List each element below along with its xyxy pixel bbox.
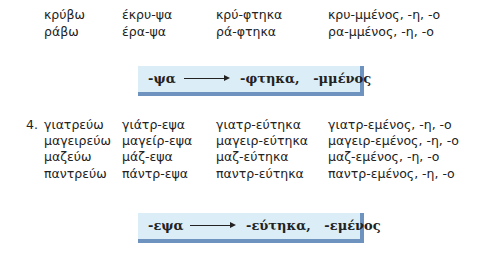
aorist-active-form: έρα-ψα: [122, 24, 166, 40]
rule-from: -εψα: [148, 213, 184, 239]
aorist-active-form: πάντρ-εψα: [122, 166, 188, 182]
aorist-active-form: μάζ-εψα: [122, 149, 173, 165]
aorist-passive-form: ρά-φτηκα: [216, 24, 276, 40]
arrow-right-icon: [190, 225, 234, 226]
aorist-passive-form: μαζ-εύτηκα: [216, 149, 289, 165]
aorist-passive-form: γιατρ-εύτηκα: [216, 117, 301, 133]
aorist-passive-form: παντρ-εύτηκα: [216, 166, 304, 182]
present-form: μαζεύω: [44, 149, 91, 165]
aorist-active-form: μαγείρ-εψα: [122, 133, 192, 149]
present-form: ράβω: [44, 24, 79, 40]
conjugation-row: μαζεύω μάζ-εψα μαζ-εύτηκα μαζ-εμένος, -η…: [0, 149, 486, 165]
present-form: μαγειρεύω: [44, 133, 111, 149]
aorist-active-form: έκρυ-ψα: [122, 7, 172, 23]
rule-box: -εψα -εύτηκα, -εμένος: [138, 213, 364, 243]
participle-form: παντρ-εμένος, -η, -ο: [328, 166, 455, 182]
rule-from: -ψα: [148, 66, 176, 92]
participle-form: μαζ-εμένος, -η, -ο: [328, 149, 439, 165]
section-number: 4.: [26, 117, 38, 133]
participle-form: γιατρ-εμένος, -η, -ο: [328, 117, 452, 133]
rule-to: -φτηκα, -μμένος: [240, 66, 371, 92]
arrow-right-icon: [184, 78, 228, 79]
conjugation-row: κρύβω έκρυ-ψα κρύ-φτηκα κρυ-μμένος, -η, …: [0, 7, 486, 23]
conjugation-row: παντρεύω πάντρ-εψα παντρ-εύτηκα παντρ-εμ…: [0, 166, 486, 182]
present-form: παντρεύω: [44, 166, 107, 182]
conjugation-row: 4. γιατρεύω γιάτρ-εψα γιατρ-εύτηκα γιατρ…: [0, 117, 486, 133]
conjugation-row: μαγειρεύω μαγείρ-εψα μαγειρ-εύτηκα μαγει…: [0, 133, 486, 149]
participle-form: κρυ-μμένος, -η, -ο: [328, 7, 440, 23]
aorist-active-form: γιάτρ-εψα: [122, 117, 185, 133]
participle-form: ρα-μμένος, -η, -ο: [328, 24, 434, 40]
participle-form: μαγειρ-εμένος, -η, -ο: [328, 133, 459, 149]
aorist-passive-form: μαγειρ-εύτηκα: [216, 133, 308, 149]
conjugation-row: ράβω έρα-ψα ρά-φτηκα ρα-μμένος, -η, -ο: [0, 24, 486, 40]
rule-to: -εύτηκα, -εμένος: [246, 213, 381, 239]
present-form: γιατρεύω: [44, 117, 104, 133]
present-form: κρύβω: [44, 7, 85, 23]
rule-box: -ψα -φτηκα, -μμένος: [138, 66, 364, 96]
aorist-passive-form: κρύ-φτηκα: [216, 7, 282, 23]
